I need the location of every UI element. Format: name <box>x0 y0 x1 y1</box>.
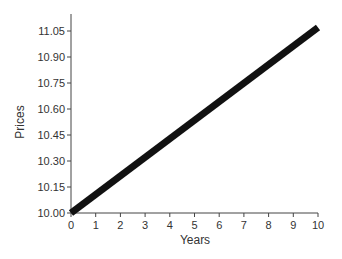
x-axis-label: Years <box>180 233 210 247</box>
plot-area <box>71 28 318 213</box>
y-tick-label: 10.60 <box>37 103 65 115</box>
x-tick-label: 6 <box>216 219 222 231</box>
x-tick-label: 9 <box>290 219 296 231</box>
x-tick-label: 3 <box>142 219 148 231</box>
y-axis: 10.0010.1510.3010.4510.6010.7510.9011.05 <box>37 14 71 219</box>
y-tick-label: 10.30 <box>37 155 65 167</box>
x-tick-label: 8 <box>266 219 272 231</box>
x-tick-label: 4 <box>167 219 173 231</box>
x-tick-label: 5 <box>191 219 197 231</box>
y-axis-label: Prices <box>13 105 27 138</box>
x-tick-label: 10 <box>312 219 324 231</box>
price-line <box>71 28 318 213</box>
y-tick-label: 11.05 <box>38 25 65 37</box>
x-tick-label: 1 <box>93 219 99 231</box>
y-tick-label: 10.00 <box>37 207 65 219</box>
y-tick-label: 10.75 <box>37 77 65 89</box>
line-chart: 10.0010.1510.3010.4510.6010.7510.9011.05… <box>0 0 342 259</box>
y-tick-label: 10.45 <box>37 129 65 141</box>
x-tick-label: 7 <box>241 219 247 231</box>
x-tick-label: 2 <box>117 219 123 231</box>
x-axis: 012345678910 <box>68 213 324 231</box>
y-tick-label: 10.90 <box>37 51 65 63</box>
x-tick-label: 0 <box>68 219 74 231</box>
y-tick-label: 10.15 <box>37 181 65 193</box>
